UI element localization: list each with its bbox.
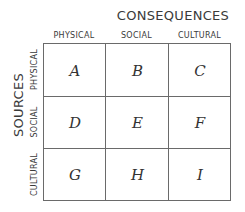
cell-cultural-physical: G [44, 149, 106, 201]
cell-social-cultural: F [169, 97, 231, 149]
cell-physical-cultural: C [169, 44, 231, 97]
cell-social-social: E [106, 97, 169, 149]
column-label-social: SOCIAL [105, 31, 168, 40]
cell-social-physical: D [44, 97, 106, 149]
cell-physical-physical: A [44, 44, 106, 97]
cell-physical-social: B [106, 44, 169, 97]
cell-cultural-cultural: I [169, 149, 231, 201]
row-label-physical: PHYSICAL [30, 43, 39, 96]
cell-cultural-social: H [106, 149, 169, 201]
column-label-physical: PHYSICAL [43, 31, 105, 40]
column-label-cultural: CULTURAL [168, 31, 231, 40]
row-label-cultural: CULTURAL [30, 148, 39, 201]
row-label-social: SOCIAL [30, 96, 39, 148]
matrix-grid: A B C D E F G H I [43, 43, 231, 201]
consequences-title: CONSEQUENCES [88, 8, 245, 23]
sources-title: SOURCES [11, 55, 26, 155]
